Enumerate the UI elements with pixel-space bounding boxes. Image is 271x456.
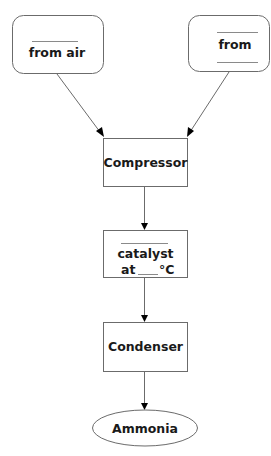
temperature-prefix-label: at	[121, 262, 135, 277]
ammonia-label: Ammonia	[112, 421, 178, 436]
temperature-unit-label: °C	[159, 262, 174, 277]
ammonia-flow-diagram: from air from Compressor catalyst at °C …	[0, 0, 271, 456]
node-compressor: Compressor	[103, 139, 188, 187]
node-reactor: catalyst at °C	[104, 231, 188, 278]
right-input-label: from	[218, 37, 251, 52]
node-product: Ammonia	[93, 410, 198, 446]
edge-right-input-to-compressor	[190, 72, 229, 132]
compressor-label: Compressor	[103, 155, 188, 170]
node-right-input: from	[189, 16, 270, 72]
left-input-label: from air	[29, 45, 86, 60]
node-left-input: from air	[13, 16, 104, 74]
edge-left-input-to-compressor	[57, 74, 100, 132]
arrowhead-icon	[141, 403, 148, 410]
catalyst-label: catalyst	[117, 246, 173, 261]
arrowhead-icon	[141, 315, 148, 322]
condenser-label: Condenser	[108, 339, 184, 354]
node-condenser: Condenser	[104, 323, 188, 372]
arrowhead-icon	[141, 223, 148, 230]
arrowhead-icon	[187, 127, 194, 137]
